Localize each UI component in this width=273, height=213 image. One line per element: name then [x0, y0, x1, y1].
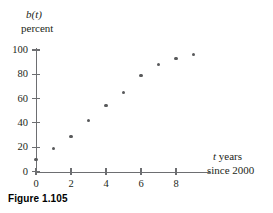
x-tick-label: 6 — [127, 179, 155, 190]
y-tick-mark — [32, 74, 40, 75]
y-tick-mark — [32, 49, 40, 50]
x-axis-reference-label: since 2000 — [207, 164, 254, 178]
data-point — [69, 135, 72, 138]
y-tick-label: 40 — [0, 118, 28, 129]
y-tick-label: 60 — [0, 94, 28, 105]
data-point — [87, 119, 90, 122]
x-axis-unit-word: years — [216, 150, 242, 162]
x-axis-label: t years since 2000 — [213, 150, 254, 177]
y-axis-function-label: b(t) — [26, 8, 42, 20]
x-tick-mark — [35, 168, 36, 175]
data-point — [139, 74, 142, 77]
y-tick-mark — [32, 147, 40, 148]
y-tick-mark — [32, 122, 40, 123]
x-tick-mark — [70, 168, 71, 175]
data-point — [192, 53, 195, 56]
x-tick-mark — [140, 168, 141, 175]
x-tick-label: 8 — [162, 179, 190, 190]
figure-caption: Figure 1.105 — [8, 193, 68, 204]
y-axis-line — [36, 48, 37, 173]
y-tick-label: 0 — [0, 167, 28, 178]
figure-container: b(t) percent t years since 2000 02040608… — [0, 0, 273, 213]
data-point — [52, 147, 55, 150]
y-tick-label: 20 — [0, 142, 28, 153]
y-axis-units-label: percent — [21, 22, 53, 36]
data-point — [122, 91, 125, 94]
x-tick-label: 2 — [57, 179, 85, 190]
x-tick-mark — [175, 168, 176, 175]
data-point — [34, 158, 37, 161]
scatter-plot: b(t) percent t years since 2000 02040608… — [0, 0, 273, 213]
y-axis-label: b(t) percent — [26, 8, 53, 35]
data-point — [157, 63, 160, 66]
y-tick-mark — [32, 98, 40, 99]
y-tick-label: 80 — [0, 69, 28, 80]
data-point — [104, 104, 107, 107]
data-point — [174, 57, 177, 60]
x-tick-label: 0 — [22, 179, 50, 190]
x-tick-mark — [105, 168, 106, 175]
x-axis-line — [36, 172, 211, 173]
y-tick-label: 100 — [0, 45, 28, 56]
x-tick-label: 4 — [92, 179, 120, 190]
